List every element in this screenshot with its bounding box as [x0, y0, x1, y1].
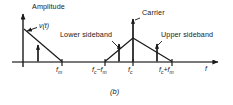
y-axis-label: Amplitude — [32, 3, 65, 10]
carrier-label: Carrier — [142, 9, 165, 16]
baseband-envelope — [24, 29, 62, 62]
am-spectrum-figure: Amplitude v(t) Carrier Lower sideband Up… — [0, 0, 233, 105]
lower-sideband-label: Lower sideband — [60, 31, 112, 38]
tick-label-fc-plus-fm: fc+fm — [159, 66, 174, 75]
baseband-signal-label: v(t) — [39, 22, 49, 29]
tick-label-fc-minus-fm: fc−fm — [92, 66, 107, 75]
tick-fc-sub: c — [130, 69, 133, 75]
vt-leader-line — [27, 28, 37, 32]
tick-label-fc: fc — [128, 66, 132, 75]
tick-label-fm: fm — [56, 66, 62, 75]
tick-fcmfm-sub2: m — [103, 69, 107, 75]
tick-fm-sub: m — [58, 69, 62, 75]
carrier-leader — [135, 18, 140, 20]
tick-fcpfm-sub2: m — [170, 69, 174, 75]
lower-sideband-leader — [112, 41, 118, 47]
x-axis-label: f — [205, 65, 207, 72]
upper-sideband-label: Upper sideband — [161, 31, 213, 38]
figure-caption: (b) — [110, 88, 119, 96]
